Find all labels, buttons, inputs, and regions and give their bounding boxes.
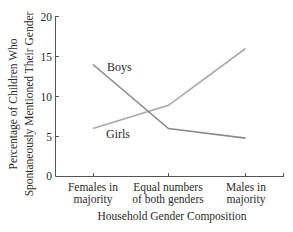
y-axis-title-line1: Percentage of Children Who [7,38,20,169]
x-axis: Females in majority Equal numbers of bot… [56,173,285,223]
y-tick-0: 0 [46,170,52,182]
x-category-males-majority-line2: majority [227,193,266,206]
y-axis-title: Percentage of Children Who Spontaneously… [7,11,36,196]
plot-area: Boys Girls [93,49,246,142]
y-tick-10: 10 [41,91,53,103]
y-axis-title-line2: Spontaneously Mentioned Their Gender [23,11,36,196]
x-category-females-majority-line1: Females in [68,181,118,193]
y-tick-15: 15 [41,51,53,63]
x-category-equal-line2: of both genders [132,193,204,206]
x-axis-title: Household Gender Composition [98,210,247,223]
series-label-girls: Girls [106,127,130,141]
y-axis: 20 15 10 5 0 [41,11,60,182]
x-category-females-majority-line2: majority [74,193,113,206]
y-tick-20: 20 [41,11,53,23]
series-label-boys: Boys [107,60,132,74]
x-category-males-majority-line1: Males in [226,181,266,193]
y-tick-5: 5 [46,131,52,143]
line-chart: Percentage of Children Who Spontaneously… [0,0,293,232]
